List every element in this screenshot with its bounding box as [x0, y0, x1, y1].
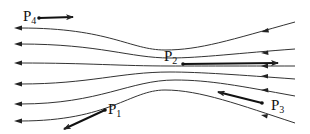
point-p4 [37, 16, 73, 20]
arrowhead-right-4 [261, 74, 268, 79]
streamline-6 [20, 90, 295, 123]
label-p1: P1 [108, 101, 121, 119]
point-dot-p4 [37, 16, 41, 20]
point-dot-p2 [181, 62, 185, 66]
velocity-arrow-p2 [183, 63, 278, 64]
point-dot-p1 [103, 108, 107, 112]
streamlines [20, 22, 295, 123]
streamline-4 [20, 72, 295, 84]
streamline-2 [20, 44, 295, 58]
label-p4: P4 [23, 8, 36, 26]
velocity-arrow-p3 [218, 92, 262, 103]
arrowhead-left-5 [14, 102, 22, 107]
point-p3 [218, 92, 264, 105]
streamline-diagram: P1 P2 P3 P4 [0, 0, 310, 134]
arrowhead-left-2 [14, 42, 22, 47]
arrowhead-left-6 [14, 119, 22, 124]
arrowhead-left-4 [14, 82, 22, 87]
label-p3: P3 [271, 97, 284, 115]
velocity-arrow-p1 [64, 110, 105, 129]
label-p2: P2 [164, 48, 177, 66]
arrowhead-right-5 [261, 88, 269, 93]
arrowhead-left-3 [14, 61, 22, 66]
point-p1 [64, 108, 107, 129]
arrowhead-right-1 [261, 28, 269, 33]
arrowhead-left-1 [14, 26, 22, 31]
arrowhead-right-6 [261, 114, 268, 119]
point-dot-p3 [260, 101, 264, 105]
velocity-arrow-p4 [39, 17, 73, 18]
arrowhead-right-3 [261, 64, 268, 69]
